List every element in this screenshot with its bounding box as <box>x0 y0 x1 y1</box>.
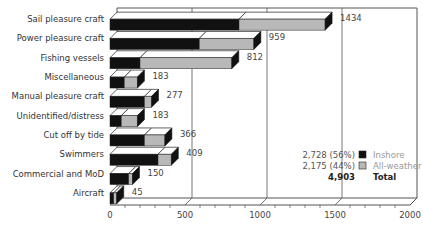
total-label: 45 <box>132 187 143 197</box>
legend-value: 2,175 (44%) <box>302 161 355 171</box>
bar-0 <box>110 12 332 30</box>
x-tick-label: 1500 <box>324 210 346 220</box>
category-label: Power pleasure craft <box>17 33 105 43</box>
legend-value: 4,903 <box>328 172 355 182</box>
legend-label: Total <box>373 172 396 182</box>
total-label: 277 <box>167 90 183 100</box>
legend-swatch <box>359 151 366 158</box>
total-label: 812 <box>247 52 263 62</box>
bar-4 <box>110 89 159 107</box>
legend-value: 2,728 (56%) <box>302 150 355 160</box>
category-label: Miscellaneous <box>44 72 104 82</box>
category-label: Fishing vessels <box>41 53 105 63</box>
bar-9 <box>110 186 124 204</box>
category-label: Unidentified/distress <box>17 111 105 121</box>
stacked-bar-chart: Sail pleasure craftPower pleasure craftF… <box>0 0 423 227</box>
category-label: Swimmers <box>60 149 105 159</box>
category-label: Aircraft <box>73 188 105 198</box>
category-label: Cut off by tide <box>43 130 104 140</box>
total-label: 1434 <box>340 13 362 23</box>
legend-label: All-weather <box>373 161 422 171</box>
category-label: Commercial and MoD <box>13 169 105 179</box>
bar-6 <box>110 128 172 146</box>
bar-7 <box>110 147 178 165</box>
bars <box>110 12 332 204</box>
legend-swatch <box>359 162 366 169</box>
bar-2 <box>110 51 239 69</box>
category-label: Sail pleasure craft <box>27 14 104 24</box>
x-axis: 0500100015002000 <box>107 205 421 220</box>
total-label: 366 <box>180 129 196 139</box>
total-label: 959 <box>269 32 285 42</box>
x-tick-label: 1000 <box>249 210 271 220</box>
category-labels: Sail pleasure craftPower pleasure craftF… <box>12 14 105 198</box>
total-label: 183 <box>152 71 168 81</box>
x-tick-label: 0 <box>107 210 112 220</box>
category-label: Manual pleasure craft <box>12 91 105 101</box>
legend: 2,728 (56%)Inshore2,175 (44%)All-weather… <box>302 150 422 182</box>
bar-8 <box>110 167 140 185</box>
total-label: 409 <box>186 148 202 158</box>
x-tick-label: 500 <box>177 210 193 220</box>
total-label: 183 <box>152 110 168 120</box>
bar-5 <box>110 109 144 127</box>
bar-1 <box>110 31 261 49</box>
x-tick-label: 2000 <box>399 210 421 220</box>
total-label: 150 <box>148 168 164 178</box>
legend-label: Inshore <box>373 150 404 160</box>
bar-3 <box>110 70 144 88</box>
